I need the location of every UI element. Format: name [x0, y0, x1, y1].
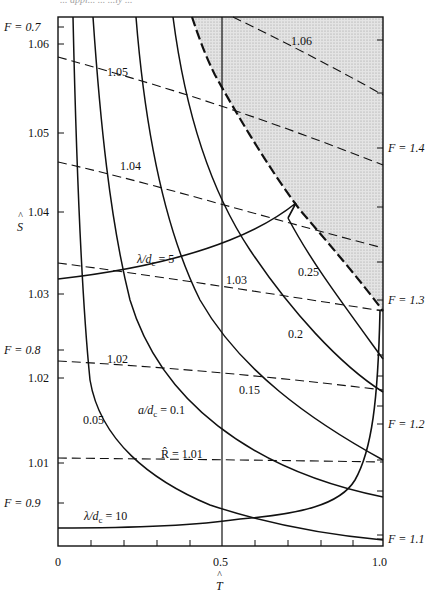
y-tick-1.01: 1.01: [28, 456, 49, 470]
x-axis-label: T: [216, 579, 224, 593]
label-lambda-10: λ/dc = 10: [83, 509, 127, 525]
label-r-1.02: 1.02: [107, 352, 128, 366]
right-f-1.2: F = 1.2: [387, 417, 424, 431]
y-tick-1.06: 1.06: [28, 37, 49, 51]
chart: 0 0.5 1.0 ^ T ^ S 1.06 1.05 1.04 1.03 1.…: [0, 0, 438, 593]
left-f-0.7: F = 0.7: [3, 20, 41, 34]
shaded-region: [192, 17, 383, 311]
curve-lambda-10: [58, 311, 380, 528]
left-axis-ticks: [58, 27, 64, 503]
label-lambda-5: λ/dc = 5: [136, 252, 174, 268]
y-tick-1.02: 1.02: [28, 371, 49, 385]
x-tick-0: 0: [55, 555, 61, 569]
curve-r-1.03: [58, 263, 383, 311]
y-tick-1.05: 1.05: [28, 126, 49, 140]
x-tick-1.0: 1.0: [372, 555, 387, 569]
left-f-0.9: F = 0.9: [3, 496, 40, 510]
y-tick-1.04: 1.04: [28, 205, 49, 219]
label-r-1.06: 1.06: [291, 34, 312, 48]
label-a-0.25: 0.25: [298, 265, 319, 279]
label-r-1.05: 1.05: [107, 65, 128, 79]
right-f-1.4: F = 1.4: [387, 141, 424, 155]
label-r-1.01: R̂ = 1.01: [161, 447, 203, 461]
curve-r-1.01: [58, 458, 383, 462]
y-tick-1.03: 1.03: [28, 287, 49, 301]
label-r-1.04: 1.04: [120, 159, 141, 173]
label-a-0.05: 0.05: [83, 413, 104, 427]
x-tick-0.5: 0.5: [213, 555, 228, 569]
label-a-0.2: 0.2: [288, 327, 303, 341]
label-r-1.03: 1.03: [226, 273, 247, 287]
left-f-0.8: F = 0.8: [3, 343, 40, 357]
right-f-1.1: F = 1.1: [387, 532, 424, 546]
right-f-1.3: F = 1.3: [387, 293, 424, 307]
y-axis-label: S: [17, 220, 23, 234]
label-a-0.1: a/dc = 0.1: [138, 403, 185, 419]
label-a-0.15: 0.15: [239, 383, 260, 397]
